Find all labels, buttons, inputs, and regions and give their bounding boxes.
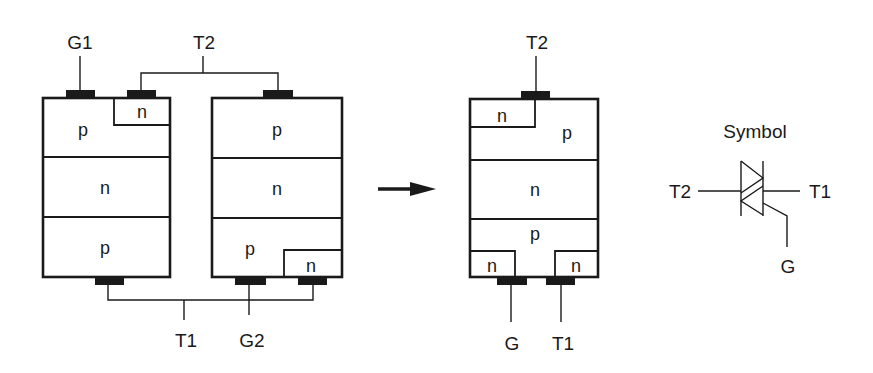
g2-contact [235,277,266,285]
scr-left-p-bottom-label: p [100,238,110,258]
scr-right-p-bottom-label: p [245,239,255,259]
right-arrow-icon [378,182,436,196]
t2-bracket: T2 [141,32,278,90]
g1-contact [66,90,95,98]
triac-bottom-left-n-label: n [487,256,497,276]
triac-bottom-right-n-label: n [571,256,581,276]
symbol-gate-lead [763,203,787,247]
scr-right-n-mid-label: n [272,179,282,199]
triac-top-n-label: n [497,106,507,126]
g2-label: G2 [239,330,264,351]
t1-bracket: T1 G2 [108,285,313,351]
triac-top-p-label: p [562,123,572,143]
scr-left-n-top-label: n [137,102,147,122]
triac-t1-label: T1 [552,333,574,354]
triac-g-label: G [505,333,520,354]
scr-left-t2-contact [127,90,156,98]
t1-label-left: T1 [175,330,197,351]
scr-right-p-top-label: p [272,120,282,140]
triac-symbol-icon: Symbol T2 T1 G [669,121,831,277]
scr-left-t1-contact [95,277,124,285]
triac-middle-n-label: n [530,180,540,200]
scr-left-n-mid-label: n [100,178,110,198]
triac-t2-contact [521,91,550,99]
symbol-t1-label: T1 [809,181,831,202]
g1-label: G1 [67,32,92,53]
triac-structure: T2 n p n p n n G T1 [470,32,598,354]
triac-t2-label: T2 [526,32,548,53]
scr-right-t1-contact [298,277,327,285]
scr-left: G1 n p n p [43,32,170,285]
scr-right-n-bottom-label: n [306,256,316,276]
scr-right: p n p n [212,90,342,285]
symbol-g-label: G [781,256,796,277]
triac-bottom-p-label: p [530,224,540,244]
symbol-title: Symbol [723,121,786,142]
symbol-t2-label: T2 [669,181,691,202]
t2-label-left: T2 [193,32,215,53]
triac-t1-contact [546,277,575,285]
scr-right-t2-contact [263,90,293,98]
t2-bracket-wire [141,73,278,90]
triac-g-contact [497,277,527,285]
triac-structure-diagram: G1 n p n p p n p n T2 T1 G2 [0,0,873,373]
scr-left-p-top-label: p [78,120,88,140]
t1-bracket-wire [108,285,313,300]
